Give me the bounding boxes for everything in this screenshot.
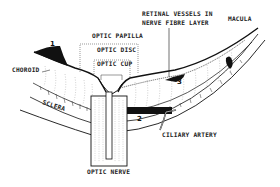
optic-cup-bracket	[101, 75, 122, 80]
nerve-fibre-layer-right	[120, 40, 245, 88]
label-choroid: CHOROID	[12, 66, 40, 73]
label-sclera: SCLERA	[42, 98, 67, 112]
central-retinal-vessel	[106, 92, 112, 159]
label-optic-papilla: OPTIC PAPILLA	[92, 32, 143, 39]
label-retinal-vessels-2: NERVE FIBRE LAYER	[142, 19, 209, 26]
marker-1: 1	[50, 40, 55, 48]
marker-2: 2	[137, 115, 142, 123]
black-band-2	[124, 107, 172, 114]
label-optic-cup: OPTIC CUP	[97, 60, 132, 67]
label-optic-nerve: OPTIC NERVE	[87, 168, 130, 175]
sclera-outer-left	[20, 110, 92, 135]
choroid-pointer	[42, 70, 50, 72]
label-retinal-vessels-1: RETINAL VESSELS IN	[142, 10, 213, 17]
retina-surface-left	[34, 52, 106, 92]
optic-nerve-diagram: OPTIC PAPILLA OPTIC DISC OPTIC CUP RETIN…	[0, 0, 280, 187]
black-lesion-3	[165, 74, 185, 82]
choroid-hatch-right	[130, 60, 242, 114]
marker-3: 3	[177, 78, 182, 86]
black-lesion-1	[34, 46, 68, 66]
label-macula: MACULA	[228, 15, 252, 22]
label-ciliary-artery: CILIARY ARTERY	[162, 131, 217, 138]
label-optic-disc: OPTIC DISC	[97, 46, 136, 53]
